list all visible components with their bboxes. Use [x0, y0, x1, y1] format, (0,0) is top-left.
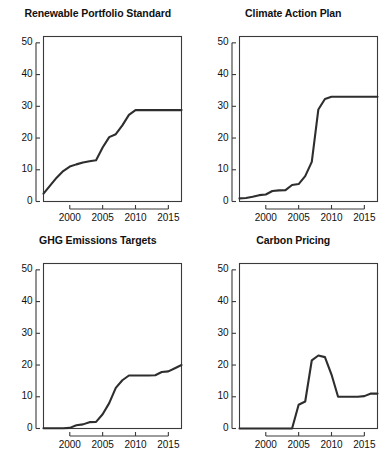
x-tick-label: 2005 — [287, 438, 310, 449]
x-tick-label: 2010 — [320, 212, 343, 223]
y-tick-label: 10 — [217, 390, 229, 401]
y-tick-label: 30 — [217, 326, 229, 337]
y-tick-label: 0 — [222, 422, 228, 433]
x-tick-label: 2015 — [353, 438, 376, 449]
x-tick-label: 2015 — [157, 438, 180, 449]
x-tick-label: 2000 — [254, 438, 277, 449]
x-tick-label: 2010 — [320, 438, 343, 449]
y-tick-label: 20 — [217, 358, 229, 369]
chart-panel-3: GHG Emissions Targets0102030405020002005… — [0, 227, 196, 453]
plot-area: 010203040502000200520102015 — [196, 0, 391, 227]
plot-area: 010203040502000200520102015 — [196, 227, 391, 453]
y-tick-label: 10 — [21, 163, 33, 174]
y-tick-label: 20 — [21, 358, 33, 369]
y-tick-label: 0 — [27, 422, 33, 433]
data-series-line — [44, 365, 182, 428]
y-tick-label: 40 — [217, 295, 229, 306]
plot-frame — [44, 37, 182, 202]
x-tick-label: 2005 — [287, 212, 310, 223]
y-tick-label: 50 — [217, 263, 229, 274]
data-series-line — [44, 110, 182, 193]
y-tick-label: 10 — [21, 390, 33, 401]
x-tick-label: 2010 — [124, 438, 147, 449]
chart-panel-2: Climate Action Plan010203040502000200520… — [196, 0, 391, 227]
y-tick-label: 0 — [222, 195, 228, 206]
y-tick-label: 30 — [21, 326, 33, 337]
chart-grid: Renewable Portfolio Standard010203040502… — [0, 0, 391, 453]
plot-frame — [239, 263, 377, 428]
data-series-line — [239, 355, 377, 428]
y-tick-label: 30 — [21, 100, 33, 111]
y-tick-label: 40 — [21, 68, 33, 79]
plot-area: 010203040502000200520102015 — [0, 0, 196, 227]
x-tick-label: 2000 — [59, 212, 82, 223]
y-tick-label: 40 — [21, 295, 33, 306]
x-tick-label: 2010 — [124, 212, 147, 223]
y-tick-label: 20 — [21, 132, 33, 143]
y-tick-label: 50 — [21, 263, 33, 274]
y-tick-label: 0 — [27, 195, 33, 206]
plot-area: 010203040502000200520102015 — [0, 227, 196, 453]
x-tick-label: 2015 — [353, 212, 376, 223]
y-tick-label: 30 — [217, 100, 229, 111]
x-tick-label: 2005 — [92, 438, 115, 449]
y-tick-label: 10 — [217, 163, 229, 174]
y-tick-label: 40 — [217, 68, 229, 79]
y-tick-label: 20 — [217, 132, 229, 143]
x-tick-label: 2000 — [254, 212, 277, 223]
plot-frame — [239, 37, 377, 202]
data-series-line — [239, 97, 377, 199]
x-tick-label: 2000 — [59, 438, 82, 449]
y-tick-label: 50 — [217, 36, 229, 47]
x-tick-label: 2015 — [157, 212, 180, 223]
plot-frame — [44, 263, 182, 428]
x-tick-label: 2005 — [92, 212, 115, 223]
chart-panel-1: Renewable Portfolio Standard010203040502… — [0, 0, 196, 227]
y-tick-label: 50 — [21, 36, 33, 47]
chart-panel-4: Carbon Pricing01020304050200020052010201… — [196, 227, 391, 453]
